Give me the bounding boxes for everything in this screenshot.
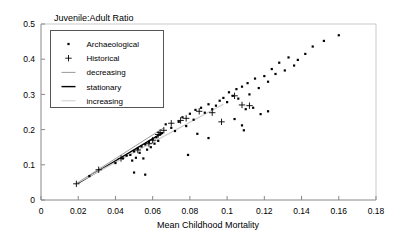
data-point-archaeological [150, 146, 152, 148]
data-point-archaeological [133, 171, 135, 173]
legend-label-Archaeological: Archaeological [87, 40, 140, 49]
data-point-archaeological [278, 62, 280, 64]
data-point-historical [246, 102, 252, 108]
data-point-archaeological [178, 121, 180, 123]
x-tick-label: 0 [39, 206, 44, 216]
data-point-archaeological [185, 125, 187, 127]
data-point-archaeological [260, 113, 262, 115]
scatter-chart-figure: Juvenile:Adult Ratio 00.020.040.060.080.… [0, 0, 403, 238]
legend-label-Historical: Historical [87, 54, 120, 63]
data-point-archaeological [304, 53, 306, 55]
data-point-historical [183, 115, 189, 121]
x-axis-ticks: 00.020.040.060.080.10.120.140.160.18 [39, 196, 385, 216]
data-point-archaeological [204, 112, 206, 114]
data-point-archaeological [248, 93, 250, 95]
data-point-archaeological [226, 101, 228, 103]
legend-marker-dot [67, 43, 69, 45]
data-point-archaeological [131, 159, 133, 161]
data-point-archaeological [193, 119, 195, 121]
chart-title-group: Juvenile:Adult Ratio [54, 13, 134, 23]
data-point-archaeological [200, 107, 202, 109]
data-point-archaeological [170, 127, 172, 129]
x-tick-label: 0.02 [70, 206, 87, 216]
page-title: Juvenile:Adult Ratio [54, 13, 134, 23]
data-point-archaeological [323, 40, 325, 42]
data-point-archaeological [189, 113, 191, 115]
data-point-archaeological [129, 154, 131, 156]
data-point-archaeological [254, 77, 256, 79]
data-point-archaeological [88, 175, 90, 177]
plot-canvas: Juvenile:Adult Ratio 00.020.040.060.080.… [0, 0, 403, 238]
data-point-archaeological [241, 86, 243, 88]
x-tick-label: 0.08 [182, 206, 199, 216]
data-point-archaeological [243, 129, 245, 131]
data-point-archaeological [267, 81, 269, 83]
data-point-archaeological [287, 56, 289, 58]
x-tick-label: 0.12 [256, 206, 273, 216]
data-point-archaeological [174, 130, 176, 132]
data-point-archaeological [237, 98, 239, 100]
y-tick-label: 0.2 [23, 125, 35, 135]
data-point-archaeological [144, 174, 146, 176]
y-tick-label: 0 [30, 195, 35, 205]
data-point-historical [218, 119, 224, 125]
data-point-archaeological [338, 34, 340, 36]
data-point-archaeological [196, 133, 198, 135]
data-point-archaeological [133, 150, 135, 152]
legend-label-increasing: increasing [87, 97, 123, 106]
data-point-archaeological [263, 75, 265, 77]
data-point-archaeological [222, 97, 224, 99]
legend-label-decreasing: decreasing [87, 68, 126, 77]
data-point-archaeological [207, 103, 209, 105]
data-point-archaeological [241, 124, 243, 126]
data-point-archaeological [252, 107, 254, 109]
data-point-archaeological [274, 73, 276, 75]
data-point-archaeological [114, 162, 116, 164]
data-point-archaeological [157, 140, 159, 142]
data-point-historical [209, 110, 215, 116]
data-point-archaeological [235, 88, 237, 90]
data-point-archaeological [187, 154, 189, 156]
data-point-archaeological [139, 152, 141, 154]
chart-legend: ArchaeologicalHistoricaldecreasingstatio… [51, 31, 164, 108]
x-tick-label: 0.06 [144, 206, 161, 216]
data-point-archaeological [140, 145, 142, 147]
data-point-archaeological [245, 108, 247, 110]
data-point-archaeological [246, 82, 248, 84]
data-point-archaeological [219, 100, 221, 102]
x-tick-label: 0.1 [221, 206, 233, 216]
data-point-archaeological [297, 59, 299, 61]
data-point-archaeological [293, 64, 295, 66]
data-point-historical [196, 108, 202, 114]
data-point-archaeological [135, 157, 137, 159]
data-point-archaeological [284, 69, 286, 71]
y-axis-ticks: 00.10.20.30.40.5 [23, 19, 45, 205]
data-point-archaeological [233, 118, 235, 120]
x-tick-label: 0.18 [368, 206, 385, 216]
data-point-archaeological [228, 91, 230, 93]
legend-label-stationary: stationary [87, 83, 122, 92]
data-point-archaeological [165, 123, 167, 125]
x-tick-label: 0.16 [331, 206, 348, 216]
data-point-historical [168, 120, 174, 126]
data-point-archaeological [312, 45, 314, 47]
y-tick-label: 0.5 [23, 19, 35, 29]
y-tick-label: 0.3 [23, 90, 35, 100]
y-tick-label: 0.4 [23, 54, 35, 64]
data-point-archaeological [153, 143, 155, 145]
data-point-archaeological [215, 105, 217, 107]
x-tick-label: 0.14 [293, 206, 310, 216]
y-tick-label: 0.1 [23, 160, 35, 170]
x-axis-label: Mean Childhood Mortality [157, 220, 260, 230]
data-point-archaeological [142, 157, 144, 159]
data-point-archaeological [271, 68, 273, 70]
data-point-archaeological [146, 149, 148, 151]
data-point-archaeological [207, 137, 209, 139]
data-point-archaeological [126, 155, 128, 157]
data-point-archaeological [258, 87, 260, 89]
data-point-archaeological [194, 109, 196, 111]
x-axis-title-group: Mean Childhood Mortality [157, 220, 260, 230]
data-point-archaeological [155, 136, 157, 138]
data-point-historical [239, 102, 245, 108]
data-point-archaeological [267, 110, 269, 112]
